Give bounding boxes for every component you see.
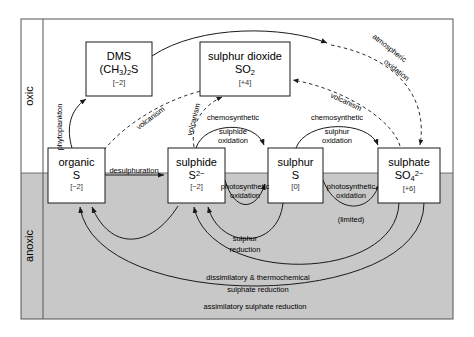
label-sulphur-reduction-line2: reduction: [230, 245, 261, 254]
label-phytoplankton: phytoplankton: [55, 104, 64, 151]
box-sulphate: [378, 148, 440, 203]
label-sulphur-oxidation-line1: sulphur: [325, 127, 350, 136]
label-photosynthetic-sulphide-line2: oxidation: [230, 191, 260, 200]
box-dms: [86, 42, 152, 96]
zone-label-oxic: oxic: [23, 86, 35, 106]
label-sulphur-oxidation-line2: oxidation: [322, 136, 352, 145]
label-desulphuration: desulphuration: [109, 166, 158, 175]
diagram-canvas: oxic anoxic phytoplankton desulphuration…: [0, 0, 474, 337]
label-photosynthetic-sulphur-line1: photosynthetic: [327, 182, 376, 191]
label-photosynthetic-sulphur-note: (limited): [338, 215, 365, 224]
box-sulphur-dioxide: [200, 42, 290, 96]
label-photosynthetic-sulphide-line1: photosynthetic: [221, 182, 270, 191]
box-organic-s: [48, 148, 105, 203]
label-sulphide-oxidation-line2: oxidation: [218, 136, 248, 145]
sulphur-cycle-diagram: oxic anoxic phytoplankton desulphuration…: [0, 0, 474, 337]
box-sulphide: [168, 148, 225, 203]
label-assimilatory: assimilatory sulphate reduction: [204, 302, 307, 311]
label-dissimilatory-line1: dissimilatory & thermochemical: [206, 273, 310, 282]
label-dissimilatory-line2: sulphate reduction: [227, 285, 288, 294]
label-chemosynthetic-sulphur-header: chemosynthetic: [311, 113, 363, 122]
label-chemosynthetic-sulphide-header: chemosynthetic: [207, 113, 259, 122]
label-sulphide-oxidation-line1: sulphide: [219, 127, 247, 136]
zone-label-anoxic: anoxic: [23, 230, 35, 262]
box-sulphur: [268, 148, 323, 203]
label-sulphur-reduction-line1: sulphur: [233, 234, 258, 243]
label-photosynthetic-sulphur-line2: oxidation: [336, 191, 366, 200]
